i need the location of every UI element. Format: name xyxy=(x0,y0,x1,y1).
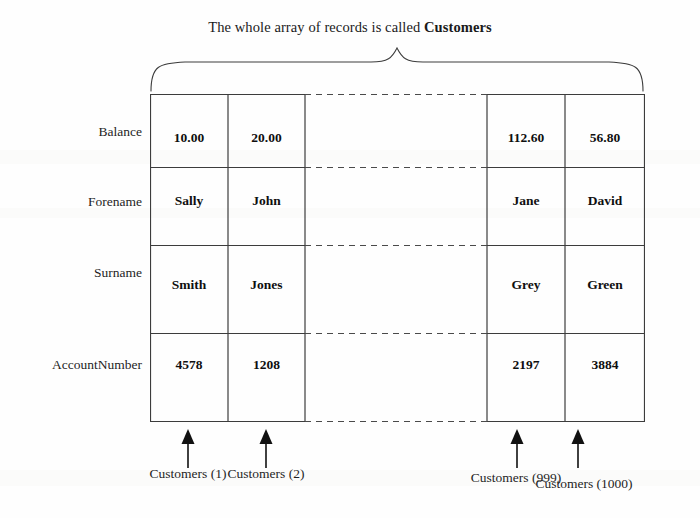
pointer-arrow-record2 xyxy=(254,428,278,468)
cell-record2-accountnumber: 1208 xyxy=(228,357,305,373)
cell-record2-forename: John xyxy=(228,193,305,209)
omitted-records-dashed-lines xyxy=(305,95,487,422)
cell-record999-balance: 112.60 xyxy=(487,130,565,146)
cell-record999-forename: Jane xyxy=(487,193,565,209)
cell-record1000-surname: Green xyxy=(565,277,645,293)
pointer-arrow-record1 xyxy=(176,428,200,468)
field-label-balance: Balance xyxy=(99,124,142,140)
cell-record999-surname: Grey xyxy=(487,277,565,293)
cell-record1000-accountnumber: 3884 xyxy=(565,357,645,373)
cell-record2-balance: 20.00 xyxy=(228,130,305,146)
caption-record1000: Customers (1000) xyxy=(504,476,664,492)
field-label-accountnumber: AccountNumber xyxy=(52,357,142,373)
title-prefix: The whole array of records is called xyxy=(208,19,424,35)
cell-record1000-balance: 56.80 xyxy=(565,130,645,146)
cell-record1-balance: 10.00 xyxy=(150,130,228,146)
field-label-surname: Surname xyxy=(94,265,142,281)
caption-record2: Customers (2) xyxy=(196,466,336,482)
pointer-arrow-record999 xyxy=(505,428,529,468)
title-emphasis: Customers xyxy=(424,19,492,35)
field-label-column: Balance Forename Surname AccountNumber xyxy=(0,0,142,518)
cell-record1-accountnumber: 4578 xyxy=(150,357,228,373)
array-span-brace xyxy=(145,44,655,92)
cell-record2-surname: Jones xyxy=(228,277,305,293)
field-label-forename: Forename xyxy=(88,194,142,210)
cell-record1000-forename: David xyxy=(565,193,645,209)
cell-record1-forename: Sally xyxy=(150,193,228,209)
pointer-arrow-record1000 xyxy=(566,428,590,468)
cell-record1-surname: Smith xyxy=(150,277,228,293)
cell-record999-accountnumber: 2197 xyxy=(487,357,565,373)
array-of-records-diagram: The whole array of records is called Cus… xyxy=(0,0,700,518)
